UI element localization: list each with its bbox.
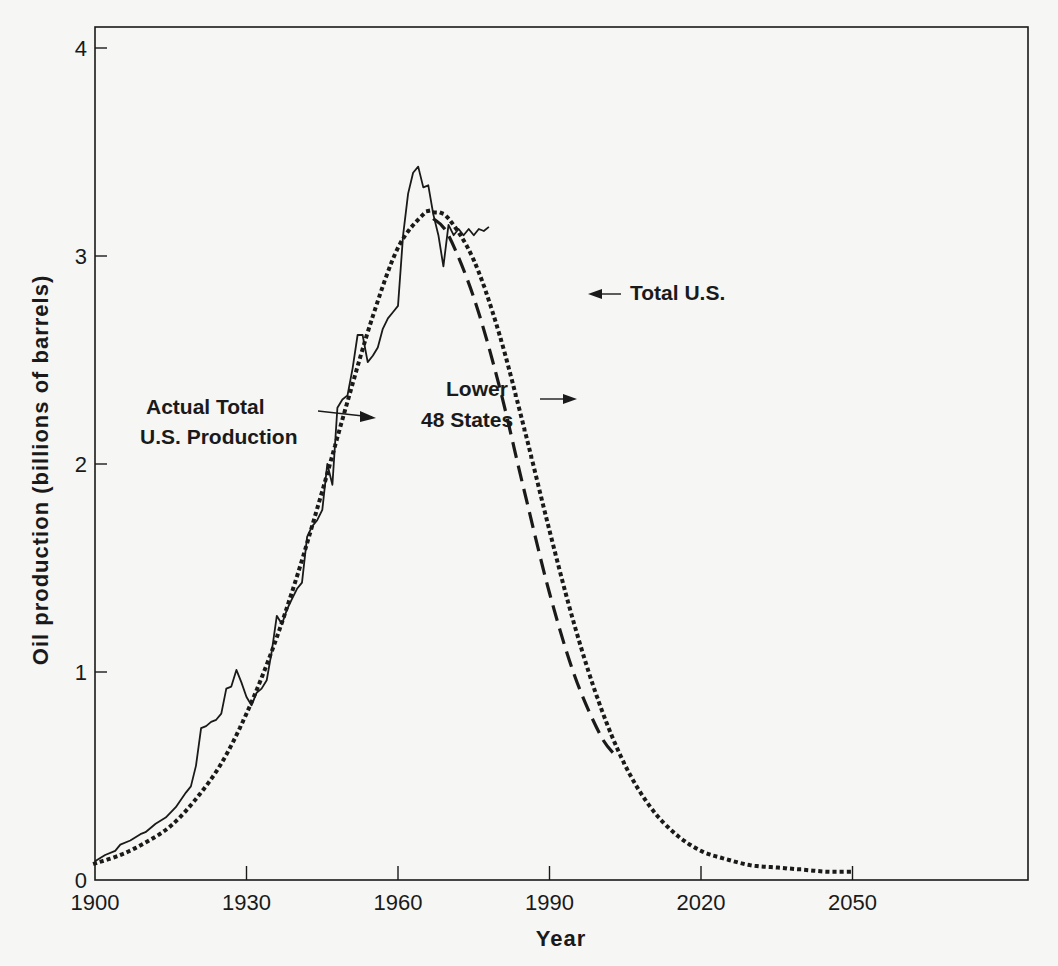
x-axis-ticks: 190019301960199020202050 [71, 866, 877, 915]
plot-frame [95, 27, 1028, 880]
actual-production-solid-line [95, 167, 489, 862]
annotation-lower-48-line2: 48 States [421, 408, 513, 431]
arrow-icon [318, 411, 376, 422]
arrow-icon [588, 289, 621, 299]
x-tick-label: 1930 [222, 890, 271, 915]
y-tick-label: 2 [75, 452, 87, 477]
annotation-actual-line2: U.S. Production [140, 425, 298, 448]
y-axis-ticks: 01234 [75, 36, 107, 893]
x-tick-label: 2020 [677, 890, 726, 915]
y-axis-title: Oil production (billions of barrels) [28, 275, 53, 665]
annotation-actual-line1: Actual Total [146, 395, 265, 418]
total-us-dotted-curve [95, 211, 853, 872]
chart: 01234 190019301960199020202050 Year Oil … [0, 0, 1058, 966]
x-tick-label: 1990 [525, 890, 574, 915]
x-tick-label: 1960 [374, 890, 423, 915]
x-tick-label: 1900 [71, 890, 120, 915]
x-axis-title: Year [536, 926, 587, 951]
annotation-lower-48-line1: Lower [446, 377, 508, 400]
lower-48-dashed-curve [433, 219, 615, 756]
annotation-total-us: Total U.S. [630, 281, 725, 304]
y-tick-label: 1 [75, 660, 87, 685]
arrow-icon [540, 394, 577, 404]
y-tick-label: 4 [75, 36, 87, 61]
y-tick-label: 3 [75, 244, 87, 269]
x-tick-label: 2050 [828, 890, 877, 915]
